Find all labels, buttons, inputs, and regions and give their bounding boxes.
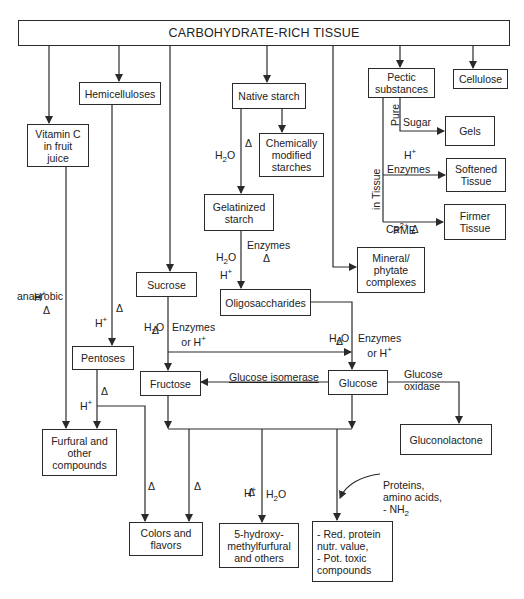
label-delta-sucrose: Δ xyxy=(152,324,159,336)
label-delta-colors-2: Δ xyxy=(194,480,201,492)
label-delta-pentoses: Δ xyxy=(101,385,108,397)
label-proteins: Proteins, amino acids, - NH2 xyxy=(383,467,442,520)
label-h-plus-hemi: H+ xyxy=(95,302,107,329)
label-glucose-isomerase: Glucose isomerase xyxy=(229,371,319,383)
native-starch-node: Native starch xyxy=(232,83,306,109)
label-delta-gelatinized: Δ xyxy=(263,252,270,264)
mineral-phytate-node: Mineral/ phytate complexes xyxy=(357,247,425,293)
glucose-node: Glucose xyxy=(328,370,388,395)
label-delta-hmf: Δ xyxy=(248,486,255,498)
carbohydrate-rich-tissue-node: CARBOHYDRATE-RICH TISSUE xyxy=(18,20,510,46)
label-h-plus-pentoses: H+ xyxy=(80,385,92,412)
pectic-substances-node: Pectic substances xyxy=(368,68,435,98)
gels-node: Gels xyxy=(445,116,495,146)
cellulose-node: Cellulose xyxy=(453,69,508,89)
vitamin-c-node: Vitamin C in fruit juice xyxy=(27,124,89,167)
label-delta-colors-1: Δ xyxy=(148,480,155,492)
firmer-tissue-node: Firmer Tissue xyxy=(444,204,506,240)
label-pme: PME xyxy=(393,224,416,236)
softened-tissue-node: Softened Tissue xyxy=(446,158,506,192)
label-h-plus-pectic: H+ xyxy=(404,134,416,161)
colors-flavors-node: Colors and flavors xyxy=(129,522,203,556)
pentoses-node: Pentoses xyxy=(72,346,134,370)
oligosaccharides-node: Oligosaccharides xyxy=(220,289,311,316)
label-enzymes-sucrose: Enzymes or H+ xyxy=(172,309,215,348)
chemically-modified-starches-node: Chemically modified starches xyxy=(259,133,324,177)
gluconolactone-node: Gluconolactone xyxy=(400,424,492,455)
label-enzymes-pectic: Enzymes xyxy=(387,163,430,175)
label-h2o-delta-starch: H2O xyxy=(215,137,235,166)
furfural-node: Furfural and other compounds xyxy=(42,429,117,476)
label-in-tissue: in Tissue xyxy=(370,169,382,210)
label-delta-starch: Δ xyxy=(245,137,252,149)
label-h-plus-gelatinized: H+ xyxy=(220,254,232,281)
gelatinized-starch-node: Gelatinized starch xyxy=(204,194,274,231)
label-h2o-hmf: H2O xyxy=(266,476,286,505)
label-enzymes-oligo: Enzymes or H+ xyxy=(358,320,401,359)
label-anaerobic: anaerobic xyxy=(17,290,63,302)
hmf-node: 5-hydroxy- methylfurfural and others xyxy=(219,523,299,568)
protein-effects-node: - Red. protein nutr. value, - Pot. toxic… xyxy=(312,521,393,582)
label-glucose-oxidase: Glucose oxidase xyxy=(404,368,443,392)
label-sugar: Sugar xyxy=(403,116,431,128)
hemicelluloses-node: Hemicelluloses xyxy=(79,82,161,105)
label-pure: Pure xyxy=(389,104,401,126)
label-delta-vitc: Δ xyxy=(43,304,50,316)
fructose-node: Fructose xyxy=(140,371,201,396)
label-delta-oligo: Δ xyxy=(336,335,343,347)
label-delta-hemi: Δ xyxy=(116,302,123,314)
sucrose-node: Sucrose xyxy=(136,272,197,297)
label-enzymes-gelatinized: Enzymes xyxy=(247,239,290,251)
